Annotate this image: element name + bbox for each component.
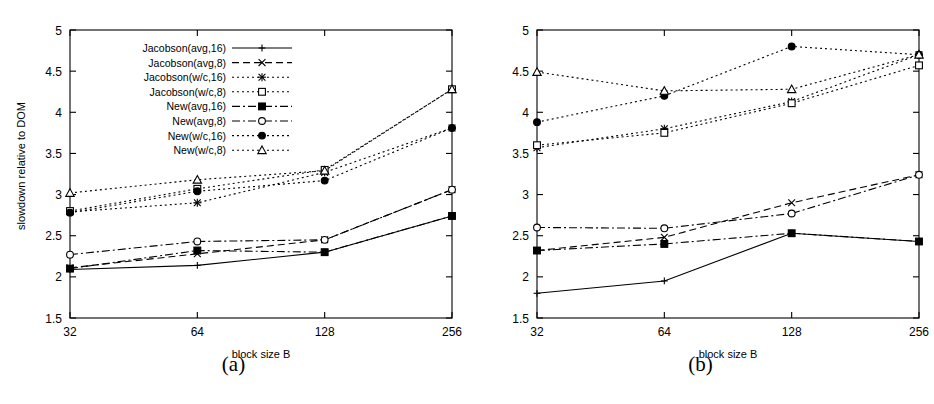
- series-new-avg-16: [67, 213, 456, 272]
- data-point-marker: [67, 265, 74, 272]
- data-point-marker: [194, 262, 201, 269]
- y-tick-label: 1.5: [45, 312, 62, 326]
- y-tick-label: 3: [55, 188, 62, 202]
- data-point-marker: [661, 241, 668, 248]
- legend-label: New(avg,16): [166, 100, 226, 112]
- data-point-marker: [193, 199, 201, 207]
- series-polyline: [70, 128, 452, 212]
- series-polyline: [70, 216, 452, 269]
- legend-marker: [259, 45, 266, 52]
- x-tick-label: 128: [782, 325, 802, 339]
- series-polyline: [537, 233, 919, 293]
- data-point-marker: [534, 247, 541, 254]
- series-polyline: [537, 175, 919, 251]
- y-tick-label: 3: [522, 188, 529, 202]
- series-polyline: [70, 128, 452, 213]
- data-point-marker: [788, 100, 795, 107]
- data-point-marker: [788, 210, 795, 217]
- data-point-marker: [916, 62, 923, 69]
- legend-label: Jacobson(w/c,16): [144, 71, 226, 83]
- x-tick-label: 64: [191, 325, 205, 339]
- y-tick-label: 2: [55, 270, 62, 284]
- series-polyline: [537, 55, 919, 148]
- y-tick-label: 3.5: [512, 147, 529, 161]
- series-polyline: [537, 233, 919, 250]
- x-tick-label: 256: [442, 325, 462, 339]
- series-new-avg-16: [534, 230, 923, 254]
- series-polyline: [70, 190, 452, 255]
- legend-label: New(w/c,8): [173, 144, 226, 156]
- legend-label: New(avg,8): [172, 115, 226, 127]
- data-point-marker: [534, 142, 541, 149]
- data-point-marker: [661, 129, 668, 136]
- data-point-marker: [916, 238, 923, 245]
- x-tick-label: 128: [315, 325, 335, 339]
- series-jacobson-avg-16: [534, 230, 923, 297]
- series-jacobson-avg-8: [534, 171, 923, 254]
- data-point-marker: [534, 119, 541, 126]
- data-point-marker: [66, 189, 74, 197]
- panel-caption-a: (a): [0, 352, 467, 377]
- plot-area-b: 1.522.533.544.553264128256block size B: [467, 0, 934, 404]
- panel-a: slowdown relative to DOM 1.522.533.544.5…: [0, 0, 467, 404]
- data-point-marker: [787, 85, 795, 93]
- data-point-marker: [321, 236, 328, 243]
- plot-frame: [537, 30, 919, 318]
- legend-marker: [259, 132, 266, 139]
- data-point-marker: [788, 199, 795, 206]
- series-polyline: [70, 190, 452, 268]
- y-tick-label: 4: [55, 106, 62, 120]
- y-tick-label: 3.5: [45, 147, 62, 161]
- data-point-marker: [449, 213, 456, 220]
- data-point-marker: [67, 251, 74, 258]
- legend-label: New(w/c,16): [168, 130, 226, 142]
- legend-label: Jacobson(avg,8): [148, 57, 226, 69]
- data-point-marker: [194, 188, 201, 195]
- data-point-marker: [788, 43, 795, 50]
- y-tick-label: 5: [55, 24, 62, 38]
- y-tick-label: 2.5: [512, 229, 529, 243]
- series-polyline: [537, 46, 919, 122]
- y-tick-label: 1.5: [512, 312, 529, 326]
- series-new-w-c-8: [66, 85, 456, 196]
- legend-marker: [258, 146, 266, 154]
- series-polyline: [537, 55, 919, 91]
- x-tick-label: 32: [530, 325, 544, 339]
- data-point-marker: [916, 171, 923, 178]
- data-point-marker: [321, 249, 328, 256]
- plot-area-a: 1.522.533.544.553264128256block size BJa…: [0, 0, 467, 404]
- series-new-w-c-16: [534, 43, 923, 126]
- legend-marker: [259, 118, 266, 125]
- data-point-marker: [534, 224, 541, 231]
- data-point-marker: [449, 125, 456, 132]
- data-point-marker: [661, 225, 668, 232]
- data-point-marker: [534, 290, 541, 297]
- data-point-marker: [67, 209, 74, 216]
- data-point-marker: [788, 230, 795, 237]
- legend-label: Jacobson(w/c,8): [150, 86, 226, 98]
- x-tick-label: 64: [658, 325, 672, 339]
- y-tick-label: 4.5: [45, 65, 62, 79]
- series-jacobson-w-c-16: [533, 51, 923, 152]
- legend-marker: [259, 88, 266, 95]
- panel-b: 1.522.533.544.553264128256block size B (…: [467, 0, 934, 404]
- legend: Jacobson(avg,16)Jacobson(avg,8)Jacobson(…: [143, 42, 292, 156]
- y-tick-label: 2.5: [45, 229, 62, 243]
- series-new-avg-8: [534, 171, 923, 231]
- y-tick-label: 4: [522, 106, 529, 120]
- data-point-marker: [449, 186, 456, 193]
- data-point-marker: [194, 247, 201, 254]
- series-jacobson-avg-16: [67, 213, 456, 273]
- figure-two-panel-line-charts: slowdown relative to DOM 1.522.533.544.5…: [0, 0, 934, 404]
- series-polyline: [537, 65, 919, 145]
- panel-caption-b: (b): [467, 352, 934, 377]
- legend-marker: [258, 73, 266, 81]
- y-tick-label: 5: [522, 24, 529, 38]
- data-point-marker: [321, 177, 328, 184]
- legend-label: Jacobson(avg,16): [143, 42, 226, 54]
- y-tick-label: 4.5: [512, 65, 529, 79]
- x-tick-label: 256: [909, 325, 929, 339]
- x-tick-label: 32: [63, 325, 77, 339]
- legend-marker: [259, 103, 266, 110]
- plot-frame: [70, 30, 452, 318]
